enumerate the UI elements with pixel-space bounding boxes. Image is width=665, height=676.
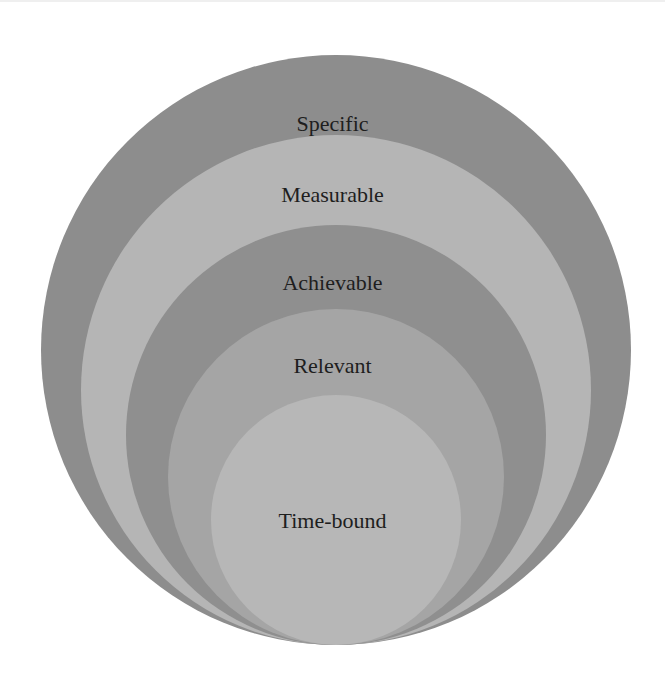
top-edge-artifact <box>0 0 665 2</box>
label-achievable: Achievable <box>0 272 665 294</box>
smart-goals-diagram: Specific Measurable Achievable Relevant … <box>0 0 665 676</box>
label-measurable: Measurable <box>0 184 665 206</box>
label-relevant: Relevant <box>0 355 665 377</box>
label-specific: Specific <box>0 113 665 135</box>
label-time-bound: Time-bound <box>0 510 665 532</box>
